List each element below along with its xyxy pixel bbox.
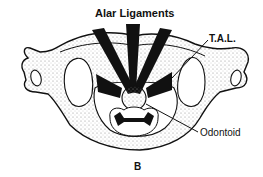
odontoid-label: Odontoid: [200, 128, 241, 138]
panel-label: B: [134, 162, 141, 172]
tal-label: T.A.L.: [209, 34, 236, 44]
odontoid-process: [122, 86, 146, 110]
vertebra-drawing: [0, 0, 263, 177]
atlas-diagram: Alar Ligaments T.A.L. Odontoid B: [0, 0, 263, 177]
left-facet: [64, 58, 92, 106]
alar-ligaments-label: Alar Ligaments: [95, 8, 174, 19]
